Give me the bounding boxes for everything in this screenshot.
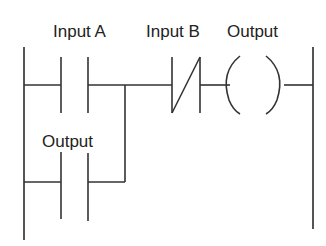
output-contact	[61, 152, 88, 221]
branch-seal-in	[24, 85, 125, 221]
ladder-diagram: Input A Input B Output Output	[0, 0, 326, 246]
input-a-contact	[61, 57, 88, 113]
label-output-coil: Output	[227, 22, 278, 41]
label-output-contact: Output	[42, 132, 93, 151]
input-b-contact	[172, 57, 200, 113]
label-input-b: Input B	[146, 22, 200, 41]
output-coil	[226, 56, 280, 114]
rung-1	[24, 56, 313, 114]
label-input-a: Input A	[53, 22, 107, 41]
